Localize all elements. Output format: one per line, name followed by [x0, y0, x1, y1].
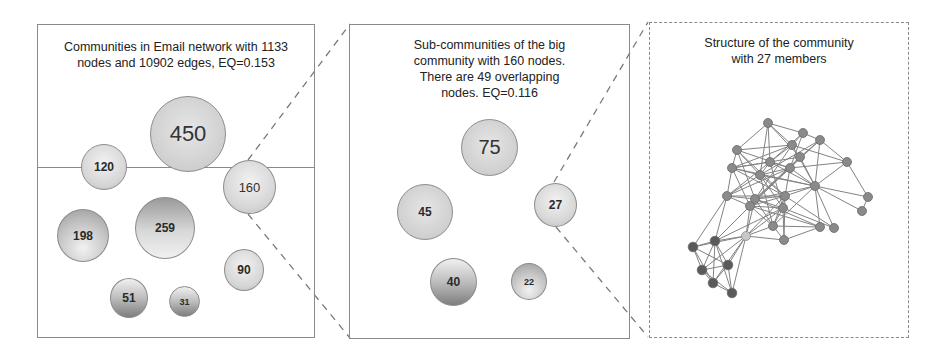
figure-canvas: Communities in Email network with 1133 n… [0, 0, 947, 357]
community-75: 75 [461, 119, 518, 176]
panel-structure-title-line-2: with 27 members [650, 51, 908, 67]
community-45: 45 [397, 184, 453, 240]
community-75-label: 75 [478, 136, 500, 159]
community-259-label: 259 [155, 221, 175, 235]
community-22-label: 22 [524, 277, 534, 287]
panel-sub-title-line-4: nodes. EQ=0.116 [350, 85, 629, 101]
community-160: 160 [223, 160, 276, 214]
panel-email-title-line-1: Communities in Email network with 1133 [38, 39, 314, 55]
community-51-label: 51 [122, 291, 135, 305]
community-90: 90 [224, 249, 264, 291]
community-31: 31 [169, 286, 200, 317]
panel-sub-communities: Sub-communities of the big community wit… [349, 24, 630, 339]
panel-structure-title-line-1: Structure of the community [650, 35, 908, 51]
panel-sub-title-line-1: Sub-communities of the big [350, 37, 629, 53]
community-90-label: 90 [237, 263, 250, 277]
panel-email-title: Communities in Email network with 1133 n… [38, 39, 314, 71]
community-259: 259 [135, 197, 195, 259]
panel-email-title-line-2: nodes and 10902 edges, EQ=0.153 [38, 55, 314, 71]
community-450: 450 [150, 96, 226, 172]
community-198-label: 198 [73, 229, 93, 243]
community-40-label: 40 [447, 275, 460, 289]
community-198: 198 [57, 209, 109, 262]
community-160-label: 160 [239, 180, 261, 195]
panel-sub-title: Sub-communities of the big community wit… [350, 37, 629, 101]
community-450-label: 450 [170, 121, 207, 147]
panel-sub-title-line-2: community with 160 nodes. [350, 53, 629, 69]
community-40: 40 [430, 258, 477, 306]
community-51: 51 [110, 278, 148, 318]
panel-structure-title: Structure of the community with 27 membe… [650, 35, 908, 67]
community-31-label: 31 [179, 297, 189, 307]
community-22: 22 [511, 263, 547, 300]
community-120-label: 120 [94, 160, 114, 174]
community-27: 27 [534, 183, 577, 227]
community-120: 120 [81, 144, 127, 190]
panel-community-structure: Structure of the community with 27 membe… [649, 22, 909, 338]
community-45-label: 45 [418, 205, 431, 219]
community-27-label: 27 [549, 198, 562, 212]
panel-sub-title-line-3: There are 49 overlapping [350, 69, 629, 85]
